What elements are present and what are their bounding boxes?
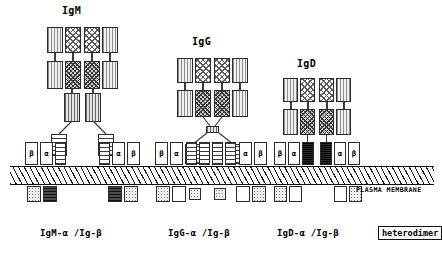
igg-linker-1 <box>184 83 186 90</box>
figure-canvas: IgM IgG IgD <box>0 0 442 260</box>
igm-cyto-beta-left <box>27 186 41 202</box>
igm-cyto-alpha-right <box>108 186 122 202</box>
igd-ecto-delta-right <box>320 142 332 165</box>
igd-linker-3 <box>326 102 328 109</box>
igd-ecto-alpha-left: α <box>288 142 300 165</box>
igd-vl-right <box>336 78 351 102</box>
igg-linker-3 <box>221 83 223 90</box>
igg-vh-left <box>195 58 211 83</box>
igm-linker-2 <box>72 53 74 61</box>
footer-igd: IgD-α /Ig-β <box>277 228 339 238</box>
igg-vl-left <box>177 58 193 83</box>
igg-linker-4 <box>239 83 241 90</box>
igg-ecto-gamma-mid-left <box>199 142 210 165</box>
igg-linker-2 <box>202 83 204 90</box>
igd-cl-right <box>336 109 351 135</box>
label-beta: β <box>258 150 263 158</box>
label-beta: β <box>159 150 164 158</box>
igm-vh-left <box>65 27 81 53</box>
igd-linker-2 <box>307 102 309 109</box>
igg-cl-left <box>177 90 193 117</box>
igm-ch-left <box>65 61 81 89</box>
igg-cyto-beta-right <box>252 186 266 202</box>
igg-ecto-alpha-left: α <box>170 142 183 165</box>
title-igg: IgG <box>192 36 211 47</box>
igd-ecto-beta-left: β <box>274 142 286 165</box>
igd-cyto-beta-left <box>274 186 287 202</box>
igm-ecto-mu-right <box>99 142 110 165</box>
igg-ecto-beta-left: β <box>155 142 168 165</box>
label-beta: β <box>278 150 283 158</box>
igd-linker-1 <box>290 102 292 109</box>
igg-ecto-gamma-left <box>186 142 197 165</box>
igd-ecto-alpha-right: α <box>334 142 346 165</box>
footer-igg: IgG-α /Ig-β <box>168 228 230 238</box>
igg-cyto-gamma-right <box>214 188 226 200</box>
igd-ch-left <box>300 109 315 135</box>
igm-ch-right <box>84 61 100 89</box>
igm-fc-right <box>85 93 101 122</box>
igg-ch-right <box>214 90 230 117</box>
plasma-membrane-band <box>10 166 434 185</box>
igm-ecto-beta-left: β <box>25 142 38 165</box>
igm-ecto-alpha-right: α <box>112 142 125 165</box>
label-alpha: α <box>243 150 248 158</box>
igg-ecto-gamma-right <box>225 142 236 165</box>
igg-cyto-gamma-left <box>189 188 201 200</box>
igm-fc-left <box>64 93 80 122</box>
igd-vl-left <box>283 78 298 102</box>
label-beta: β <box>131 150 136 158</box>
igg-vh-right <box>214 58 230 83</box>
igd-linker-4 <box>343 102 345 109</box>
igg-vl-right <box>232 58 248 83</box>
label-alpha: α <box>116 150 121 158</box>
label-alpha: α <box>44 150 49 158</box>
igm-linker-4 <box>109 53 111 61</box>
igm-ecto-mu-left <box>55 142 66 165</box>
igg-ecto-alpha-right: α <box>239 142 252 165</box>
igm-vl-right <box>102 27 118 53</box>
igg-cl-right <box>232 90 248 117</box>
igg-cyto-alpha-right <box>236 186 250 202</box>
igg-hinge-knot <box>206 126 219 133</box>
igm-fc-linker-left <box>71 89 73 94</box>
igd-cyto-alpha-right <box>334 186 347 202</box>
igg-ch-left <box>195 90 211 117</box>
igg-cyto-beta-left <box>156 186 170 202</box>
title-igd: IgD <box>297 58 316 69</box>
title-igm: IgM <box>62 5 81 16</box>
footer-igm: IgM-α /Ig-β <box>40 228 102 238</box>
igm-ecto-beta-right: β <box>127 142 140 165</box>
label-beta: β <box>29 150 34 158</box>
legend-heterodimer-box: heterodimer <box>378 226 442 240</box>
igd-ecto-delta-left <box>302 142 314 165</box>
label-alpha: α <box>292 150 297 158</box>
igd-ecto-beta-right: β <box>348 142 360 165</box>
igm-cl-right <box>102 61 118 89</box>
igd-vh-right <box>319 78 334 102</box>
igm-cyto-alpha-left <box>43 186 57 202</box>
igm-cyto-beta-right <box>124 186 138 202</box>
plasma-membrane-label: PLASMA MEMBRANE <box>356 186 422 194</box>
igm-cl-left <box>47 61 63 89</box>
label-alpha: α <box>338 150 343 158</box>
igg-ecto-gamma-mid-right <box>212 142 223 165</box>
igd-cl-left <box>283 109 298 135</box>
igm-fc-linker-right <box>92 89 94 94</box>
igg-cyto-alpha-left <box>172 186 186 202</box>
label-beta: β <box>352 150 357 158</box>
igd-ch-right <box>319 109 334 135</box>
igm-ecto-alpha-left: α <box>40 142 53 165</box>
igd-cyto-alpha-left <box>289 186 302 202</box>
igd-vh-left <box>300 78 315 102</box>
igm-linker-3 <box>91 53 93 61</box>
igm-linker-1 <box>54 53 56 61</box>
igg-ecto-beta-right: β <box>254 142 267 165</box>
label-alpha: α <box>174 150 179 158</box>
igm-splay-lines <box>50 121 116 135</box>
igm-vh-right <box>84 27 100 53</box>
igm-vl-left <box>47 27 63 53</box>
